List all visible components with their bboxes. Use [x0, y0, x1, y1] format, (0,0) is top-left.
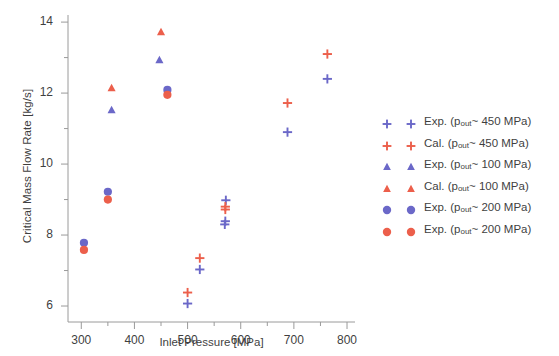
- legend-marker-circle-icon: [404, 203, 418, 217]
- legend-label: Cal. (pout~ 450 MPa): [424, 137, 529, 150]
- legend-marker-triangle-icon: [380, 182, 394, 196]
- legend-item[interactable]: Exp. (pout~ 450 MPa): [372, 113, 558, 135]
- legend-item[interactable]: Cal. (pout~ 450 MPa): [372, 135, 558, 157]
- legend-label-prefix: Exp. (p: [424, 201, 460, 213]
- x-tick-label: 700: [274, 333, 314, 347]
- series-1: [183, 49, 332, 297]
- y-tick-label: 12: [23, 85, 53, 99]
- legend-marker-triangle-icon: [380, 160, 394, 174]
- legend-label-tail: ~ 100 MPa): [472, 158, 532, 170]
- data-point: [104, 195, 112, 203]
- legend-marker-plus-icon: [380, 139, 394, 153]
- legend-marker-triangle-icon: [404, 182, 418, 196]
- y-tick-label: 10: [23, 156, 53, 170]
- data-point: [108, 84, 116, 92]
- data-point: [104, 188, 112, 196]
- data-point: [80, 246, 88, 254]
- legend-label-prefix: Cal. (p: [424, 137, 458, 149]
- data-point: [195, 254, 204, 263]
- chart-legend: Exp. (pout~ 450 MPa)Cal. (pout~ 450 MPa)…: [372, 113, 558, 242]
- y-tick-label: 6: [23, 298, 53, 312]
- legend-label-prefix: Cal. (p: [424, 180, 458, 192]
- legend-marker-plus-icon: [380, 117, 394, 131]
- series-5: [80, 91, 172, 254]
- series-2: [108, 56, 164, 114]
- x-tick-label: 800: [327, 333, 367, 347]
- data-point: [283, 98, 292, 107]
- legend-label-tail: ~ 100 MPa): [469, 180, 529, 192]
- series-3: [108, 28, 166, 92]
- data-point: [80, 239, 88, 247]
- data-point: [155, 56, 163, 64]
- y-tick-label: 14: [23, 14, 53, 28]
- legend-label-subscript: out: [458, 141, 469, 150]
- y-tick-label: 8: [23, 227, 53, 241]
- legend-label-prefix: Exp. (p: [424, 158, 460, 170]
- series-0: [183, 74, 332, 308]
- legend-label-tail: ~ 200 MPa): [472, 223, 532, 235]
- legend-label-tail: ~ 200 MPa): [472, 201, 532, 213]
- legend-label-tail: ~ 450 MPa): [469, 137, 529, 149]
- x-tick-label: 300: [61, 333, 101, 347]
- data-point: [163, 91, 171, 99]
- data-point: [195, 265, 204, 274]
- legend-marker-plus-icon: [404, 139, 418, 153]
- data-point: [157, 28, 165, 36]
- legend-item[interactable]: Exp. (pout~ 200 MPa): [372, 221, 558, 243]
- legend-marker-triangle-icon: [404, 160, 418, 174]
- x-tick-label: 600: [221, 333, 261, 347]
- data-point: [323, 74, 332, 83]
- data-point: [283, 128, 292, 137]
- legend-label: Exp. (pout~ 450 MPa): [424, 115, 531, 128]
- data-point: [108, 106, 116, 114]
- legend-label-subscript: out: [460, 227, 471, 236]
- legend-marker-circle-icon: [380, 203, 394, 217]
- legend-label-tail: ~ 450 MPa): [472, 115, 532, 127]
- legend-label: Exp. (pout~ 200 MPa): [424, 223, 531, 236]
- legend-label-subscript: out: [458, 184, 469, 193]
- x-tick-label: 500: [168, 333, 208, 347]
- legend-label-subscript: out: [460, 162, 471, 171]
- legend-label: Exp. (pout~ 200 MPa): [424, 201, 531, 214]
- legend-item[interactable]: Exp. (pout~ 200 MPa): [372, 199, 558, 221]
- data-point: [323, 49, 332, 58]
- series-4: [80, 86, 172, 247]
- legend-label: Cal. (pout~ 100 MPa): [424, 180, 529, 193]
- legend-item[interactable]: Exp. (pout~ 100 MPa): [372, 156, 558, 178]
- legend-label-prefix: Exp. (p: [424, 223, 460, 235]
- legend-marker-plus-icon: [404, 117, 418, 131]
- legend-item[interactable]: Cal. (pout~ 100 MPa): [372, 178, 558, 200]
- data-point: [183, 299, 192, 308]
- legend-marker-circle-icon: [404, 225, 418, 239]
- scatter-chart-figure: Critical Mass Flow Rate [kg/s] Inlet Pre…: [0, 0, 559, 356]
- legend-marker-circle-icon: [380, 225, 394, 239]
- legend-label: Exp. (pout~ 100 MPa): [424, 158, 531, 171]
- x-tick-label: 400: [114, 333, 154, 347]
- data-point: [183, 288, 192, 297]
- legend-label-subscript: out: [460, 119, 471, 128]
- legend-label-prefix: Exp. (p: [424, 115, 460, 127]
- legend-label-subscript: out: [460, 205, 471, 214]
